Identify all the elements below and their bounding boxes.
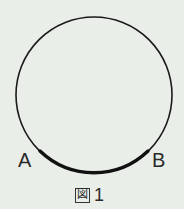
figure-caption-prefix: 図 (75, 188, 90, 203)
point-b-label: B (152, 150, 165, 170)
arc-ab (40, 151, 148, 173)
figure-caption: 図 1 (75, 185, 104, 206)
figure-canvas: A B 図 1 (0, 0, 184, 209)
circle-diagram (0, 0, 184, 209)
figure-caption-number: 1 (94, 185, 104, 206)
point-a-label: A (18, 150, 31, 170)
